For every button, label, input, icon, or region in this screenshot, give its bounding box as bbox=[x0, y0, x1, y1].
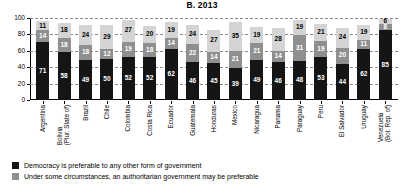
stacked-bar[interactable]: 281446 bbox=[272, 18, 285, 100]
bar-segment[interactable]: 22 bbox=[186, 44, 199, 62]
bar-segment[interactable]: 53 bbox=[314, 57, 327, 100]
bar-segment[interactable]: 18 bbox=[79, 45, 92, 60]
stacked-bar[interactable]: 291250 bbox=[100, 18, 113, 100]
bar-group[interactable]: 241849 bbox=[75, 18, 96, 100]
x-axis-tick-label: Venezuela(Bol. Rep. of) bbox=[379, 105, 392, 142]
bar-segment[interactable]: 24 bbox=[79, 25, 92, 45]
bar-segment[interactable]: 19 bbox=[250, 27, 263, 43]
bar-segment[interactable]: 46 bbox=[272, 62, 285, 100]
bar-segment[interactable]: 85 bbox=[379, 30, 392, 100]
stacked-bar[interactable]: 6885 bbox=[379, 18, 392, 100]
bar-segment[interactable]: 21 bbox=[229, 51, 242, 68]
bar-segment[interactable]: 49 bbox=[250, 60, 263, 100]
bar-segment[interactable]: 14 bbox=[272, 51, 285, 62]
bar-group[interactable]: 242246 bbox=[182, 18, 203, 100]
bar-segment[interactable]: 12 bbox=[100, 49, 113, 59]
bar-segment[interactable]: 52 bbox=[143, 57, 156, 100]
bar-segment[interactable]: 29 bbox=[100, 25, 113, 49]
bar-group[interactable]: 181858 bbox=[53, 18, 74, 100]
x-axis-tick-label: Peru bbox=[318, 105, 325, 118]
bar-segment[interactable]: 62 bbox=[357, 49, 370, 100]
x-axis-tick-label: El Salvador bbox=[339, 105, 346, 137]
x-axis-category: Panama bbox=[267, 101, 288, 159]
bar-segment[interactable]: 14 bbox=[36, 30, 49, 41]
bar-group[interactable]: 281446 bbox=[267, 18, 288, 100]
bar-segment[interactable]: 62 bbox=[165, 49, 178, 100]
legend-item[interactable]: Democracy is preferable to any other for… bbox=[12, 160, 402, 171]
bar-segment[interactable]: 18 bbox=[143, 43, 156, 58]
stacked-bar[interactable]: 271445 bbox=[207, 18, 220, 100]
bar-segment[interactable]: 27 bbox=[207, 30, 220, 52]
bar-value-label: 18 bbox=[60, 42, 67, 49]
bar-group[interactable]: 271952 bbox=[118, 18, 139, 100]
stacked-bar[interactable]: 111471 bbox=[36, 18, 49, 100]
x-axis-tick-mark bbox=[364, 101, 365, 104]
x-axis-tick-label: Argentina bbox=[39, 105, 46, 132]
stacked-bar[interactable]: 241849 bbox=[79, 18, 92, 100]
bar-segment[interactable]: 19 bbox=[357, 25, 370, 41]
bar-segment[interactable]: 44 bbox=[336, 64, 349, 100]
x-axis-tick-mark bbox=[321, 101, 322, 104]
x-axis-category: Honduras bbox=[203, 101, 224, 159]
bar-segment[interactable]: 71 bbox=[36, 42, 49, 100]
stacked-bar[interactable]: 191462 bbox=[165, 18, 178, 100]
stacked-bar[interactable]: 181858 bbox=[58, 18, 71, 100]
bar-segment[interactable]: 20 bbox=[336, 48, 349, 64]
bar-segment[interactable]: 58 bbox=[58, 52, 71, 100]
bar-segment[interactable]: 24 bbox=[336, 28, 349, 48]
bar-segment[interactable]: 24 bbox=[186, 25, 199, 45]
stacked-bar[interactable]: 201852 bbox=[143, 18, 156, 100]
bar-segment[interactable]: 18 bbox=[58, 23, 71, 38]
bar-group[interactable]: 111471 bbox=[32, 18, 53, 100]
bar-group[interactable]: 201852 bbox=[139, 18, 160, 100]
bar-value-label: 24 bbox=[339, 34, 346, 41]
bar-segment[interactable]: 14 bbox=[165, 38, 178, 49]
bar-segment[interactable]: 21 bbox=[250, 43, 263, 60]
bar-group[interactable]: 193148 bbox=[289, 18, 310, 100]
bar-segment[interactable]: 48 bbox=[293, 61, 306, 100]
bar-segment[interactable]: 45 bbox=[207, 63, 220, 100]
bar-segment[interactable]: 49 bbox=[79, 60, 92, 100]
stacked-bar[interactable]: 242044 bbox=[336, 18, 349, 100]
bar-group[interactable]: 192149 bbox=[246, 18, 267, 100]
bar-segment[interactable]: 52 bbox=[122, 57, 135, 100]
bar-segment[interactable]: 11 bbox=[36, 21, 49, 30]
bar-group[interactable]: 242044 bbox=[332, 18, 353, 100]
bar-segment[interactable]: 28 bbox=[272, 28, 285, 51]
stacked-bar[interactable]: 191162 bbox=[357, 18, 370, 100]
bar-group[interactable]: 211953 bbox=[310, 18, 331, 100]
bar-segment[interactable]: 50 bbox=[100, 59, 113, 100]
bar-segment[interactable]: 14 bbox=[207, 52, 220, 63]
stacked-bar[interactable]: 192149 bbox=[250, 18, 263, 100]
bar-segment[interactable]: 31 bbox=[293, 35, 306, 60]
bar-segment[interactable]: 19 bbox=[165, 22, 178, 38]
bar-segment[interactable]: 21 bbox=[314, 24, 327, 41]
bar-segment[interactable]: 18 bbox=[58, 38, 71, 53]
bar-value-label: 44 bbox=[339, 79, 346, 86]
bar-segment[interactable]: 27 bbox=[122, 20, 135, 42]
bar-group[interactable]: 191462 bbox=[160, 18, 181, 100]
bar-segment[interactable]: 19 bbox=[293, 20, 306, 36]
bar-segment[interactable]: 19 bbox=[314, 41, 327, 57]
bar-group[interactable]: 191162 bbox=[353, 18, 374, 100]
bar-segment[interactable]: 19 bbox=[122, 42, 135, 58]
stacked-bar[interactable]: 193148 bbox=[293, 18, 306, 100]
legend-swatch bbox=[12, 162, 19, 169]
stacked-bar[interactable]: 271952 bbox=[122, 18, 135, 100]
legend-item[interactable]: Under some circumstances, an authoritari… bbox=[12, 171, 402, 182]
bar-segment[interactable]: 35 bbox=[229, 22, 242, 51]
x-axis-tick-sublabel: (Plur. State of) bbox=[64, 105, 71, 145]
bar-group[interactable]: 291250 bbox=[96, 18, 117, 100]
bar-group[interactable]: 6885 bbox=[375, 18, 396, 100]
bar-segment[interactable]: 39 bbox=[229, 68, 242, 100]
bar-group[interactable]: 271445 bbox=[203, 18, 224, 100]
stacked-bar[interactable]: 242246 bbox=[186, 18, 199, 100]
stacked-bar[interactable]: 352139 bbox=[229, 18, 242, 100]
bar-segment[interactable]: 11 bbox=[357, 40, 370, 49]
bar-group[interactable]: 352139 bbox=[225, 18, 246, 100]
stacked-bar[interactable]: 211953 bbox=[314, 18, 327, 100]
x-axis-tick-label: Panama bbox=[275, 105, 282, 128]
bar-segment[interactable]: 20 bbox=[143, 26, 156, 42]
bar-segment[interactable]: 46 bbox=[186, 62, 199, 100]
y-axis-tick-label: 20 bbox=[18, 80, 25, 87]
